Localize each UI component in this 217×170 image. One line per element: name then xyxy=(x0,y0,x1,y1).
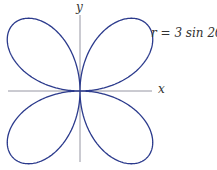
y-axis-label: y xyxy=(76,0,83,14)
x-axis-label: x xyxy=(158,82,165,96)
curve-equation-label: r = 3 sin 2θ xyxy=(151,26,217,40)
